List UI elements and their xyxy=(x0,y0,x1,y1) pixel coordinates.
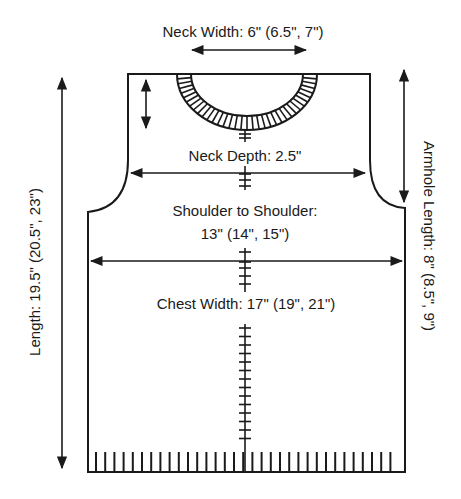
shoulder-label-line2: 13" (14", 15") xyxy=(201,225,290,242)
armhole-length-label: Armhole Length: 8" (8.5", 9") xyxy=(421,141,438,331)
neckline-ribbing xyxy=(177,74,317,130)
neck-width-label: Neck Width: 6" (6.5", 7") xyxy=(162,23,323,40)
hem-ribbing xyxy=(96,452,390,472)
chest-width-label: Chest Width: 17" (19", 21") xyxy=(157,295,336,312)
shoulder-label-line1: Shoulder to Shoulder: xyxy=(172,202,317,219)
vest-schematic: Neck Width: 6" (6.5", 7") Neck Depth: 2.… xyxy=(0,0,461,499)
length-label: Length: 19.5" (20.5", 23") xyxy=(26,188,43,356)
neck-depth-label: Neck Depth: 2.5" xyxy=(189,147,302,164)
